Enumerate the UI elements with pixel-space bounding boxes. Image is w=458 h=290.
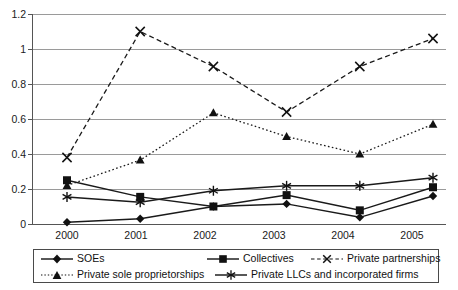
line-chart: 1.2 1 0.8 0.6 0.4 0.2 0 2000 2001 2002 2… — [0, 0, 458, 290]
legend-item-private-llcs[interactable]: Private LLCs and incorporated firms — [214, 266, 419, 283]
data-point — [136, 156, 145, 164]
data-point — [356, 206, 364, 214]
data-point — [282, 132, 291, 140]
diamond-marker-icon — [40, 252, 74, 266]
data-point — [428, 34, 437, 43]
series-line — [67, 32, 433, 158]
data-point — [136, 215, 144, 223]
x-marker-icon — [310, 252, 344, 266]
legend-item-collectives[interactable]: Collectives — [206, 250, 294, 267]
legend-item-soes[interactable]: SOEs — [40, 250, 104, 267]
series-line — [67, 196, 433, 222]
legend-label: Private sole proprietorships — [77, 269, 204, 280]
data-point — [355, 62, 364, 71]
legend-label: Private LLCs and incorporated firms — [251, 269, 419, 280]
series-soes — [63, 192, 437, 227]
data-point — [429, 183, 437, 191]
data-point — [62, 153, 71, 162]
triangle-marker-icon — [40, 268, 74, 282]
legend-item-private-partnerships[interactable]: Private partnerships — [310, 250, 440, 267]
series-collectives — [63, 176, 437, 214]
data-point — [356, 213, 364, 221]
legend-label: Collectives — [243, 253, 294, 264]
chart-legend: SOEs Collectives Private partnerships — [33, 249, 439, 283]
data-point — [282, 107, 291, 116]
data-point — [355, 149, 364, 157]
series-private-partnerships — [62, 27, 437, 162]
data-point — [282, 200, 290, 208]
data-point — [209, 108, 218, 116]
data-point — [429, 120, 438, 128]
asterisk-marker-icon — [214, 268, 248, 282]
legend-item-private-sole-proprietorships[interactable]: Private sole proprietorships — [40, 266, 204, 283]
data-point — [209, 203, 217, 211]
series-private-sole-proprietorships — [63, 108, 438, 189]
data-point — [283, 191, 291, 199]
data-point — [136, 27, 145, 36]
series-private-llcs-and-incorporated-firms — [63, 173, 438, 208]
data-point — [209, 62, 218, 71]
legend-label: Private partnerships — [347, 253, 440, 264]
data-series-layer — [0, 0, 458, 290]
data-point — [429, 192, 437, 200]
series-line — [67, 113, 433, 186]
data-point — [63, 218, 71, 226]
square-marker-icon — [206, 252, 240, 266]
series-line — [67, 178, 433, 203]
legend-label: SOEs — [77, 253, 104, 264]
